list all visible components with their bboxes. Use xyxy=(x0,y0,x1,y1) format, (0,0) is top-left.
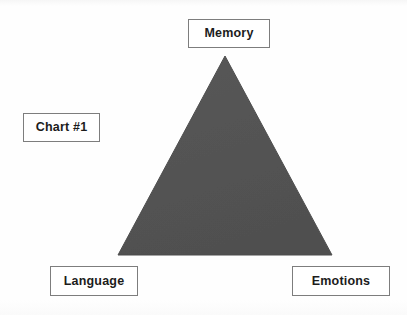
node-label-emotions[interactable]: Emotions xyxy=(292,266,390,296)
node-label-memory-text: Memory xyxy=(204,27,253,40)
diagram-canvas: Memory Chart #1 Language Emotions xyxy=(0,0,407,315)
chart-caption-box[interactable]: Chart #1 xyxy=(23,113,100,142)
node-label-memory[interactable]: Memory xyxy=(188,19,270,48)
node-label-language-text: Language xyxy=(64,275,125,288)
chart-caption-text: Chart #1 xyxy=(36,121,88,134)
node-label-language[interactable]: Language xyxy=(50,266,138,296)
node-label-emotions-text: Emotions xyxy=(312,275,371,288)
triangle-shape xyxy=(118,56,332,255)
